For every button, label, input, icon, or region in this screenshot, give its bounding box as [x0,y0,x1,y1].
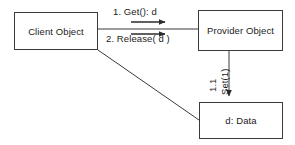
node-client-object-label: Client Object [28,26,84,37]
uml-diagram-canvas: Client Object Provider Object d: Data 1.… [0,0,295,145]
node-data-object-label: d: Data [225,115,256,126]
edge-label-set: Set(1) [219,69,230,95]
node-provider-object-label: Provider Object [207,25,274,36]
edge-label-set-sequence: 1.1 [207,78,218,92]
edge-label-release: 2. Release( d ) [106,33,170,44]
edge-label-get: 1. Get(): d [113,6,157,17]
node-provider-object[interactable]: Provider Object [198,10,283,51]
node-data-object[interactable]: d: Data [199,102,283,139]
association-line-client-data [98,50,199,120]
node-client-object[interactable]: Client Object [14,12,98,50]
